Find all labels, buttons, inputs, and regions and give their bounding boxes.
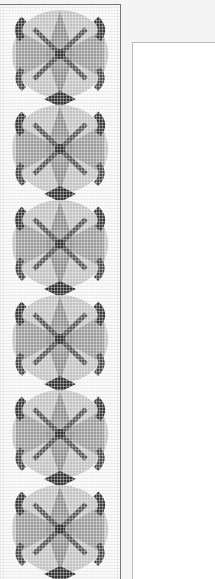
cross-stitch-pattern [0, 4, 121, 579]
pattern-image [4, 9, 116, 579]
legend-panel [132, 42, 215, 579]
